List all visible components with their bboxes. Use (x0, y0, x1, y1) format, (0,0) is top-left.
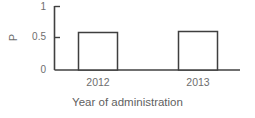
bar-chart: P 1 0.5 0 2012 2013 Year of administrati… (0, 0, 255, 118)
y-axis-label: P (8, 23, 19, 53)
bar-2012 (79, 33, 118, 71)
y-tick-label-bottom: 0 (20, 65, 46, 75)
x-tick-label-2012: 2012 (68, 77, 128, 88)
x-tick-label-2013: 2013 (168, 77, 228, 88)
y-tick-label-top: 1 (20, 2, 46, 12)
y-tick-label-middle: 0.5 (20, 32, 46, 42)
bar-2013 (179, 32, 218, 71)
x-axis-title: Year of administration (0, 97, 255, 109)
